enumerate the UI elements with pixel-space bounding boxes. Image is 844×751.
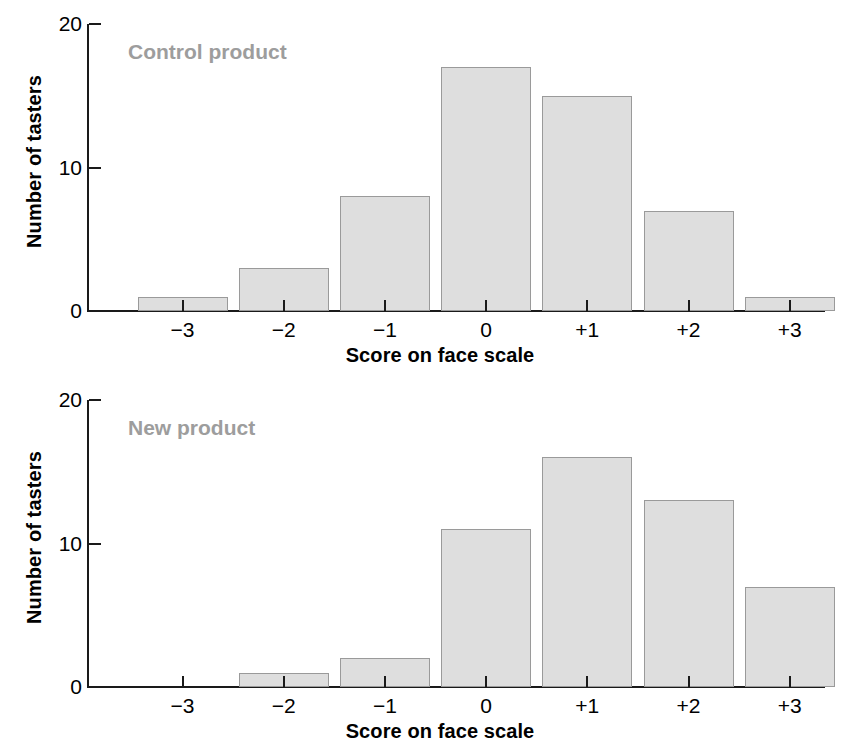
figure-root: Number of tasters Control product 01020 … bbox=[0, 0, 844, 751]
x-tick-label-control-2: −1 bbox=[355, 317, 415, 342]
y-tick-new-10 bbox=[89, 543, 101, 545]
x-tick-label-new-3: 0 bbox=[456, 693, 516, 718]
x-tick-label-control-3: 0 bbox=[456, 317, 516, 342]
x-tick-control-3 bbox=[485, 300, 487, 311]
y-tick-label-control-0: 0 bbox=[42, 300, 82, 321]
x-tick-label-control-4: +1 bbox=[557, 317, 617, 342]
x-tick-label-control-5: +2 bbox=[659, 317, 719, 342]
x-axis-label-text-new: Score on face scale bbox=[346, 720, 535, 743]
x-axis-label-control: Score on face scale bbox=[0, 344, 844, 367]
x-tick-new-0 bbox=[182, 676, 184, 687]
x-tick-label-new-2: −1 bbox=[355, 693, 415, 718]
bar-new-6 bbox=[745, 587, 835, 687]
x-tick-control-6 bbox=[789, 300, 791, 311]
bar-control-4 bbox=[542, 96, 632, 311]
x-tick-new-2 bbox=[384, 676, 386, 687]
x-tick-label-new-0: −3 bbox=[153, 693, 213, 718]
chart-panel-control: Number of tasters Control product 01020 … bbox=[0, 0, 844, 375]
plot-area-new bbox=[88, 400, 825, 687]
x-tick-new-5 bbox=[688, 676, 690, 687]
x-tick-control-4 bbox=[586, 300, 588, 311]
x-tick-control-2 bbox=[384, 300, 386, 311]
y-tick-new-0 bbox=[89, 686, 101, 688]
y-tick-control-0 bbox=[89, 310, 101, 312]
bar-control-5 bbox=[644, 211, 734, 311]
x-tick-control-5 bbox=[688, 300, 690, 311]
y-tick-label-new-20: 20 bbox=[42, 389, 82, 410]
chart-panel-new: Number of tasters New product 01020 −3−2… bbox=[0, 376, 844, 751]
x-axis-label-text-control: Score on face scale bbox=[346, 344, 535, 367]
x-tick-label-control-0: −3 bbox=[153, 317, 213, 342]
x-tick-label-control-1: −2 bbox=[254, 317, 314, 342]
y-tick-control-10 bbox=[89, 167, 101, 169]
bar-new-3 bbox=[441, 529, 531, 687]
x-tick-control-0 bbox=[182, 300, 184, 311]
y-tick-label-control-10: 10 bbox=[42, 157, 82, 178]
bar-control-3 bbox=[441, 67, 531, 311]
y-tick-label-control-20: 20 bbox=[42, 13, 82, 34]
x-tick-new-1 bbox=[283, 676, 285, 687]
x-tick-label-control-6: +3 bbox=[760, 317, 820, 342]
x-axis-label-new: Score on face scale bbox=[0, 720, 844, 743]
bar-new-5 bbox=[644, 500, 734, 687]
y-tick-control-20 bbox=[89, 23, 101, 25]
y-tick-label-new-10: 10 bbox=[42, 533, 82, 554]
x-tick-new-3 bbox=[485, 676, 487, 687]
bar-new-4 bbox=[542, 457, 632, 687]
plot-area-control bbox=[88, 24, 825, 311]
x-tick-label-new-1: −2 bbox=[254, 693, 314, 718]
x-tick-new-4 bbox=[586, 676, 588, 687]
x-tick-label-new-6: +3 bbox=[760, 693, 820, 718]
bar-control-2 bbox=[340, 196, 430, 311]
x-tick-new-6 bbox=[789, 676, 791, 687]
x-tick-label-new-5: +2 bbox=[659, 693, 719, 718]
x-tick-control-1 bbox=[283, 300, 285, 311]
y-tick-label-new-0: 0 bbox=[42, 676, 82, 697]
x-tick-label-new-4: +1 bbox=[557, 693, 617, 718]
y-tick-new-20 bbox=[89, 399, 101, 401]
